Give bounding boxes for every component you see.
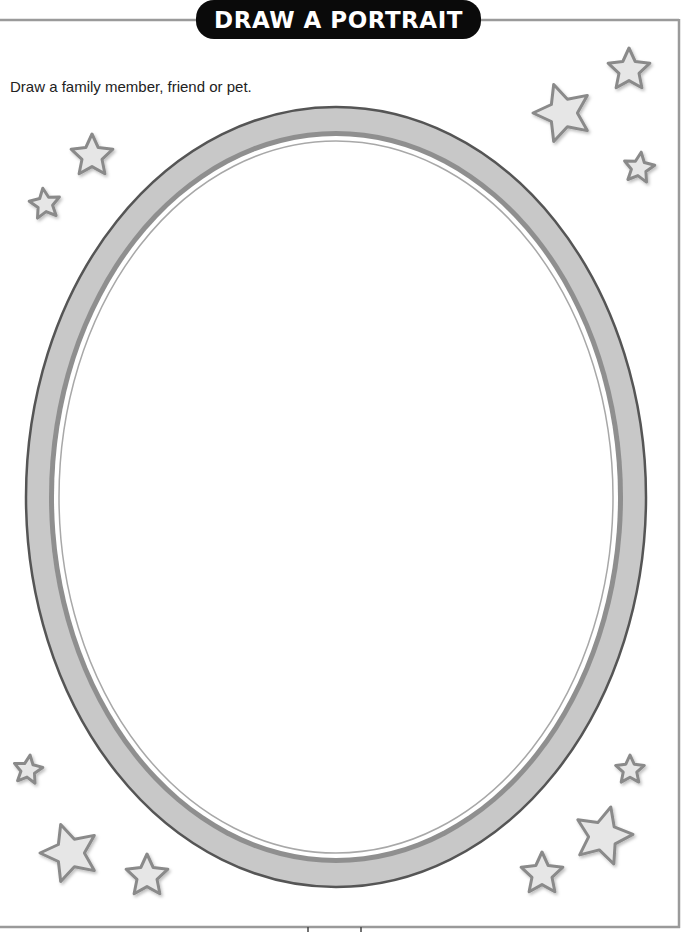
star-top-right-3-icon [625, 152, 655, 182]
star-top-left-2-icon [29, 188, 59, 218]
star-top-right-2-icon [533, 85, 587, 142]
star-top-left-1-icon [71, 134, 113, 174]
page-title: DRAW A PORTRAIT [214, 7, 463, 33]
instruction-text: Draw a family member, friend or pet. [10, 78, 252, 95]
star-bottom-right-1-icon [616, 755, 645, 782]
star-bottom-left-2-icon [40, 825, 94, 882]
drawing-area[interactable] [59, 141, 613, 853]
star-bottom-left-1-icon [15, 755, 43, 783]
title-badge: DRAW A PORTRAIT [196, 0, 481, 39]
star-bottom-right-3-icon [521, 852, 563, 892]
star-bottom-left-3-icon [126, 854, 168, 894]
worksheet-page [0, 0, 686, 932]
portrait-frame [26, 107, 646, 887]
star-top-right-1-icon [608, 48, 650, 88]
star-bottom-right-2-icon [578, 807, 633, 864]
